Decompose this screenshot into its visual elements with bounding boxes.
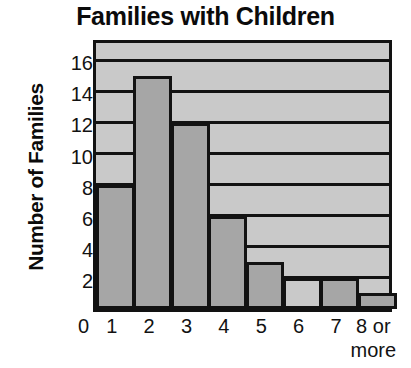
y-tick-label-14: 14 (59, 84, 93, 104)
bar-5 (246, 262, 285, 309)
y-axis-ticks: 246810121416 (45, 0, 93, 368)
y-tick-label-4: 4 (59, 240, 93, 260)
x-tick-label-line: more (336, 338, 411, 362)
y-tick-label-6: 6 (59, 209, 93, 229)
y-tick-label-12: 12 (59, 115, 93, 135)
plot-inner (96, 43, 389, 309)
bar-6 (283, 278, 322, 309)
y-tick-label-2: 2 (59, 271, 93, 291)
bar-8-or-more (358, 293, 397, 309)
plot-area (93, 40, 392, 312)
bar-3 (171, 123, 210, 310)
y-tick-label-8: 8 (59, 178, 93, 198)
x-tick-label-line: 8 or (356, 315, 390, 337)
bar-4 (208, 216, 247, 309)
x-tick-label-8-or-more: 8 ormore (336, 314, 411, 362)
x-axis-labels: 12345678 ormore (93, 314, 392, 368)
gridline-16 (96, 59, 389, 62)
bar-chart-figure: Families with Children Number of Familie… (0, 0, 411, 368)
bar-2 (133, 76, 172, 309)
y-tick-label-16: 16 (59, 53, 93, 73)
y-tick-label-10: 10 (59, 147, 93, 167)
bar-1 (96, 185, 135, 309)
bar-7 (320, 278, 359, 309)
